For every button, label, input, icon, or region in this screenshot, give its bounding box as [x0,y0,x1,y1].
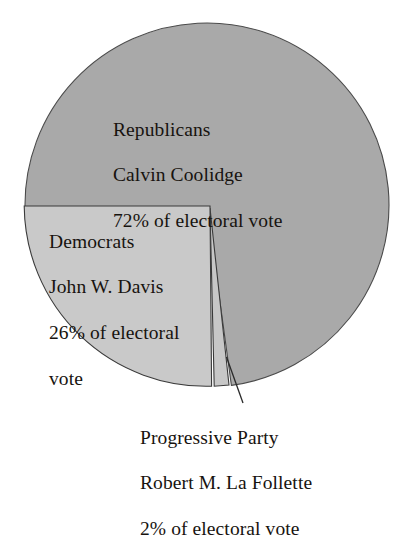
slice-label-progressive: Progressive Party Robert M. La Follette … [140,404,312,539]
democrats-party-name: Democrats [49,231,179,254]
republicans-candidate-name: Calvin Coolidge [113,164,282,187]
slice-label-democrats: Democrats John W. Davis 26% of electoral… [49,208,179,413]
progressive-candidate-name: Robert M. La Follette [140,472,312,495]
progressive-party-name: Progressive Party [140,427,312,450]
democrats-vote-share-line1: 26% of electoral [49,322,179,345]
progressive-vote-share: 2% of electoral vote [140,518,312,539]
democrats-vote-share-line2: vote [49,368,179,391]
democrats-candidate-name: John W. Davis [49,276,179,299]
republicans-party-name: Republicans [113,119,282,142]
